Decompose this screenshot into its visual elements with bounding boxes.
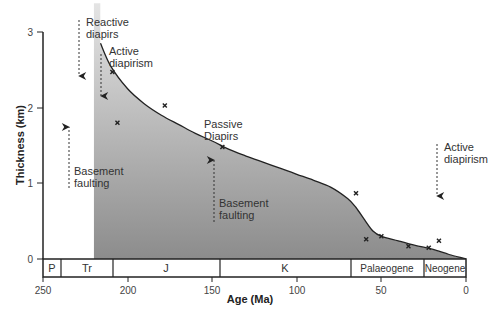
x-axis-title: Age (Ma)	[227, 293, 274, 305]
active-diapirism-label-left-2: diapirism	[109, 57, 153, 69]
thickness-age-chart: 3 2 1 0 Thickness (km) P Tr J K Palaeoge…	[0, 0, 503, 318]
y-tick-2: 2	[27, 103, 33, 114]
x-axis: 250 200 150 100 50 0 Age (Ma)	[35, 277, 470, 305]
period-bar: P Tr J K Palaeogene Neogene	[43, 259, 466, 277]
basement-faulting-label-middle: Basement	[219, 197, 269, 209]
x-tick-200: 200	[120, 285, 137, 296]
x-tick-250: 250	[35, 285, 52, 296]
y-tick-0: 0	[27, 254, 33, 265]
x-tick-50: 50	[375, 285, 387, 296]
y-tick-1: 1	[27, 178, 33, 189]
period-triassic: Tr	[82, 262, 92, 274]
y-axis: 3 2 1 0 Thickness (km)	[14, 27, 43, 265]
x-tick-0: 0	[463, 285, 469, 296]
period-palaeogene: Palaeogene	[360, 263, 414, 274]
reactive-diapirs-label-2: diapirs	[86, 28, 119, 40]
passive-diapirs-label: Passive	[204, 118, 243, 130]
basement-faulting-label-left-2: faulting	[74, 177, 109, 189]
x-tick-150: 150	[204, 285, 221, 296]
period-cretaceous: K	[281, 262, 289, 274]
active-diapirism-label-right: Active	[444, 141, 474, 153]
period-p: P	[48, 262, 55, 274]
period-neogene: Neogene	[425, 263, 466, 274]
basement-faulting-label-middle-2: faulting	[219, 209, 254, 221]
period-jurassic: J	[163, 262, 169, 274]
basement-faulting-label-left: Basement	[74, 165, 124, 177]
passive-diapirs-label-2: Diapirs	[204, 130, 239, 142]
active-diapirism-label-right-2: diapirism	[444, 153, 488, 165]
y-axis-title: Thickness (km)	[14, 105, 26, 185]
reactive-diapirs-label: Reactive	[86, 16, 129, 28]
active-diapirism-label-left: Active	[109, 45, 139, 57]
y-tick-3: 3	[27, 27, 33, 38]
thickness-area	[94, 0, 466, 259]
x-tick-100: 100	[289, 285, 306, 296]
